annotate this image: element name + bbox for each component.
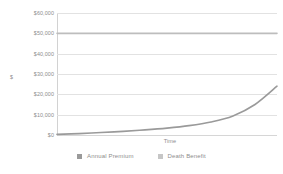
legend-swatch-icon [158, 154, 163, 159]
series-lines [57, 13, 277, 135]
x-axis-title: Time [0, 138, 283, 145]
series-line [57, 86, 277, 134]
y-axis-tick-label: $50,000 [8, 30, 54, 36]
legend-item[interactable]: Annual Premium [77, 152, 133, 160]
gridline [57, 135, 277, 136]
y-axis-tick-label: $10,000 [8, 112, 54, 118]
legend-swatch-icon [77, 154, 82, 159]
y-axis-tick-label: $40,000 [8, 51, 54, 57]
legend-item[interactable]: Death Benefit [158, 152, 206, 160]
y-axis-tick-label: $20,000 [8, 91, 54, 97]
plot-area [57, 13, 277, 135]
legend-label: Annual Premium [87, 152, 133, 160]
y-axis-tick-label: $30,000 [8, 71, 54, 77]
y-axis-tick-label: $60,000 [8, 10, 54, 16]
legend-label: Death Benefit [168, 152, 206, 160]
y-axis-title: $ [10, 74, 13, 80]
line-chart: $0$10,000$20,000$30,000$40,000$50,000$60… [0, 0, 283, 174]
chart-legend: Annual PremiumDeath Benefit [0, 152, 283, 160]
